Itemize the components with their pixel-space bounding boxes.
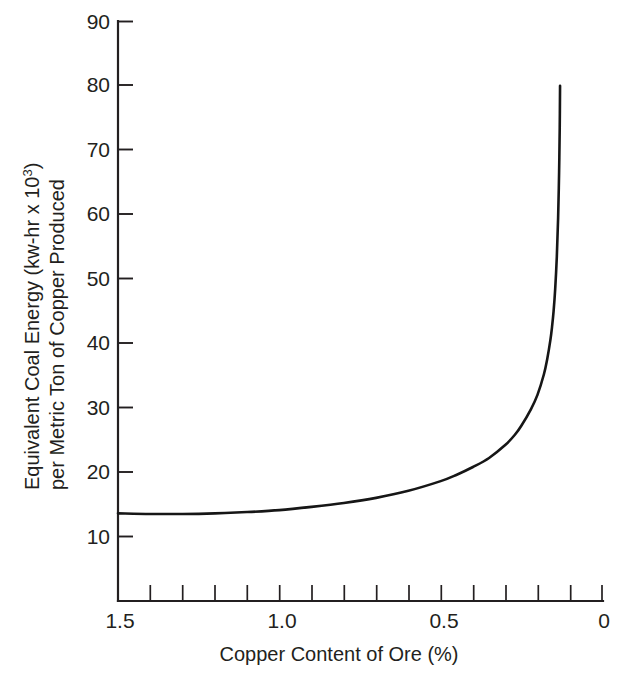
y-axis-label: Equivalent Coal Energy (kw-hr x 103) per… [20, 163, 68, 490]
x-axis-ticks [150, 585, 602, 601]
y-tick-label-30: 30 [87, 396, 110, 419]
y-tick-label-40: 40 [87, 331, 110, 354]
x-tick-label-1.5: 1.5 [105, 609, 134, 632]
x-tick-label-1.0: 1.0 [267, 609, 296, 632]
y-axis-label-line-2: per Metric Ton of Copper Produced [46, 179, 68, 490]
y-tick-label-60: 60 [87, 202, 110, 225]
data-curve [118, 86, 560, 514]
y-axis-label-line-1: Equivalent Coal Energy (kw-hr x 103) [20, 163, 43, 490]
chart-figure: Equivalent Coal Energy (kw-hr x 103) per… [0, 0, 625, 680]
y-axis-ticks [118, 22, 133, 537]
chart-svg: Equivalent Coal Energy (kw-hr x 103) per… [0, 0, 625, 680]
y-tick-label-80: 80 [87, 73, 110, 96]
y-tick-label-50: 50 [87, 267, 110, 290]
x-tick-label-0: 0 [598, 609, 610, 632]
y-axis-tick-labels: 90 80 70 60 50 40 30 20 10 [87, 10, 110, 548]
y-tick-label-10: 10 [87, 525, 110, 548]
x-axis-label: Copper Content of Ore (%) [220, 643, 459, 665]
x-tick-label-0.5: 0.5 [429, 609, 458, 632]
y-tick-label-20: 20 [87, 460, 110, 483]
y-tick-label-90: 90 [87, 10, 110, 33]
x-axis-tick-labels: 1.5 1.0 0.5 0 [105, 609, 609, 632]
y-tick-label-70: 70 [87, 138, 110, 161]
